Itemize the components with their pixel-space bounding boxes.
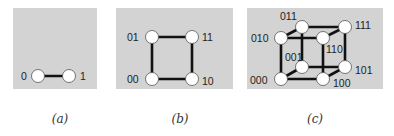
node-10 <box>186 73 199 86</box>
node-label: 11 <box>202 31 213 43</box>
hypercube-figure: 0 1 01 11 00 10 <box>0 0 394 136</box>
node-label: 011 <box>280 10 297 22</box>
node-label: 110 <box>326 43 343 55</box>
node-1 <box>63 70 76 83</box>
node-11 <box>186 31 199 44</box>
node-100 <box>317 73 330 86</box>
node-label: 100 <box>333 77 351 89</box>
caption-c: (c) <box>307 112 323 126</box>
node-label: 1 <box>80 70 86 82</box>
caption-b: (b) <box>171 112 188 126</box>
node-011 <box>296 21 309 34</box>
node-01 <box>146 31 159 44</box>
caption-a: (a) <box>52 112 69 126</box>
node-0 <box>32 70 45 83</box>
node-label: 0 <box>21 70 27 82</box>
node-label: 001 <box>285 51 303 63</box>
node-label: 10 <box>202 75 214 87</box>
node-111 <box>339 21 352 34</box>
node-101 <box>339 61 352 74</box>
node-label: 00 <box>127 73 139 85</box>
node-label: 01 <box>127 31 139 43</box>
node-label: 101 <box>355 64 373 76</box>
node-000 <box>275 73 288 86</box>
node-label: 010 <box>251 32 269 44</box>
node-010 <box>275 32 288 45</box>
node-label: 000 <box>250 74 268 86</box>
node-00 <box>146 73 159 86</box>
node-label: 111 <box>355 19 371 31</box>
